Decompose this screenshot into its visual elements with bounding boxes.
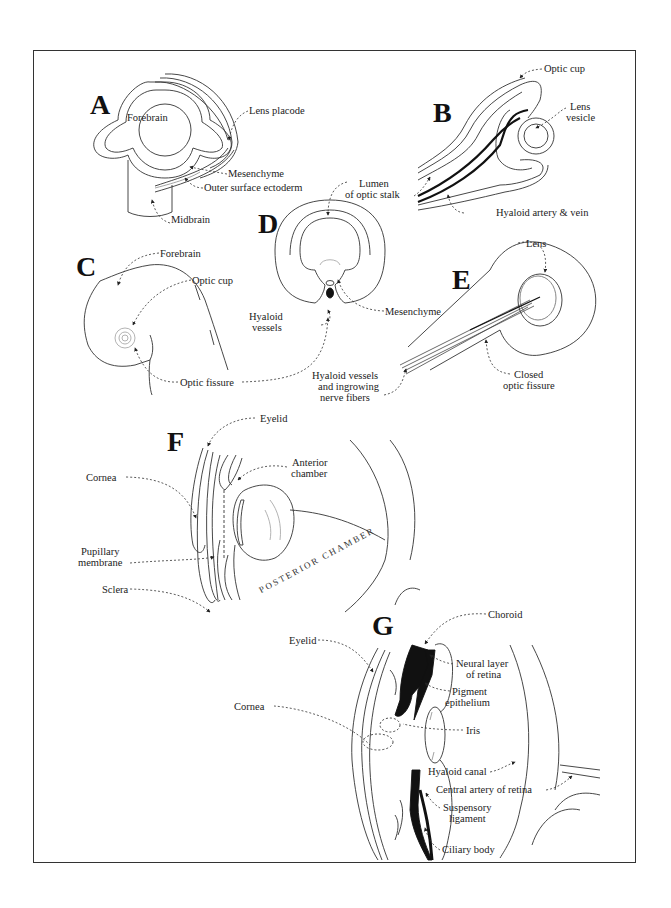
label-f-pupillary-line1: Pupillary bbox=[81, 546, 120, 557]
label-g-pigment-line2: epithelium bbox=[445, 697, 490, 708]
label-g-hyaloid-canal: Hyaloid canal bbox=[428, 766, 487, 777]
label-g-suspensory-line2: ligament bbox=[449, 813, 486, 824]
panel-letter-f: F bbox=[167, 428, 184, 456]
label-f-eyelid: Eyelid bbox=[260, 413, 287, 424]
label-d-hyaloid-line2: vessels bbox=[252, 322, 282, 333]
label-c-forebrain: Forebrain bbox=[160, 248, 201, 259]
label-d-hyaloid-line1: Hyaloid bbox=[249, 311, 283, 322]
panel-letter-a: A bbox=[90, 91, 110, 119]
label-b-optic-cup: Optic cup bbox=[544, 63, 585, 74]
label-f-anterior-line1: Anterior bbox=[292, 457, 328, 468]
panel-letter-c: C bbox=[76, 253, 96, 281]
panel-letter-g: G bbox=[372, 612, 394, 640]
label-b-hyaloid-artery-vein: Hyaloid artery & vein bbox=[496, 207, 588, 218]
label-g-central-artery: Central artery of retina bbox=[436, 784, 532, 795]
label-e-hyaloid-line2: and ingrowing bbox=[318, 381, 379, 392]
label-g-eyelid: Eyelid bbox=[289, 635, 316, 646]
label-b-lens-vesicle-line1: Lens bbox=[570, 101, 590, 112]
label-optic-fissure: Optic fissure bbox=[180, 377, 234, 388]
label-g-choroid: Choroid bbox=[488, 609, 522, 620]
label-d-mesenchyme: Mesenchyme bbox=[385, 306, 441, 317]
label-g-iris: Iris bbox=[466, 725, 480, 736]
label-g-pigment-line1: Pigment bbox=[452, 686, 487, 697]
figure-artwork bbox=[0, 0, 671, 908]
label-e-lens: Lens bbox=[526, 238, 546, 249]
label-a-midbrain: Midbrain bbox=[171, 214, 210, 225]
label-f-anterior-line2: chamber bbox=[291, 468, 327, 479]
label-f-cornea: Cornea bbox=[86, 472, 116, 483]
label-b-lens-vesicle-line2: vesicle bbox=[566, 112, 595, 123]
panel-d-drawing bbox=[275, 200, 385, 303]
label-g-suspensory-line1: Suspensory bbox=[443, 802, 491, 813]
label-e-closed-line2: optic fissure bbox=[503, 380, 555, 391]
label-a-lens-placode: Lens placode bbox=[249, 105, 305, 116]
label-a-forebrain: Forebrain bbox=[127, 112, 168, 123]
leader-lines bbox=[118, 69, 572, 850]
label-d-lumen-line1: Lumen bbox=[359, 178, 389, 189]
label-e-hyaloid-line3: nerve fibers bbox=[320, 392, 370, 403]
label-f-pupillary-line2: membrane bbox=[78, 557, 122, 568]
label-e-closed-line1: Closed bbox=[514, 369, 543, 380]
label-g-cornea: Cornea bbox=[234, 701, 264, 712]
label-g-neural-line2: of retina bbox=[466, 669, 501, 680]
panel-letter-d: D bbox=[258, 210, 278, 238]
label-g-ciliary-body: Ciliary body bbox=[442, 844, 495, 855]
label-f-sclera: Sclera bbox=[102, 584, 128, 595]
label-g-neural-line1: Neural layer bbox=[456, 658, 508, 669]
label-a-outer-ectoderm: Outer surface ectoderm bbox=[204, 182, 303, 193]
panel-a-drawing bbox=[94, 74, 238, 217]
label-d-lumen-line2: of optic stalk bbox=[345, 189, 400, 200]
panel-letter-b: B bbox=[433, 99, 452, 127]
label-a-mesenchyme: Mesenchyme bbox=[228, 168, 284, 179]
label-c-optic-cup: Optic cup bbox=[192, 275, 233, 286]
panel-letter-e: E bbox=[452, 266, 471, 294]
label-e-hyaloid-line1: Hyaloid vessels bbox=[312, 370, 378, 381]
